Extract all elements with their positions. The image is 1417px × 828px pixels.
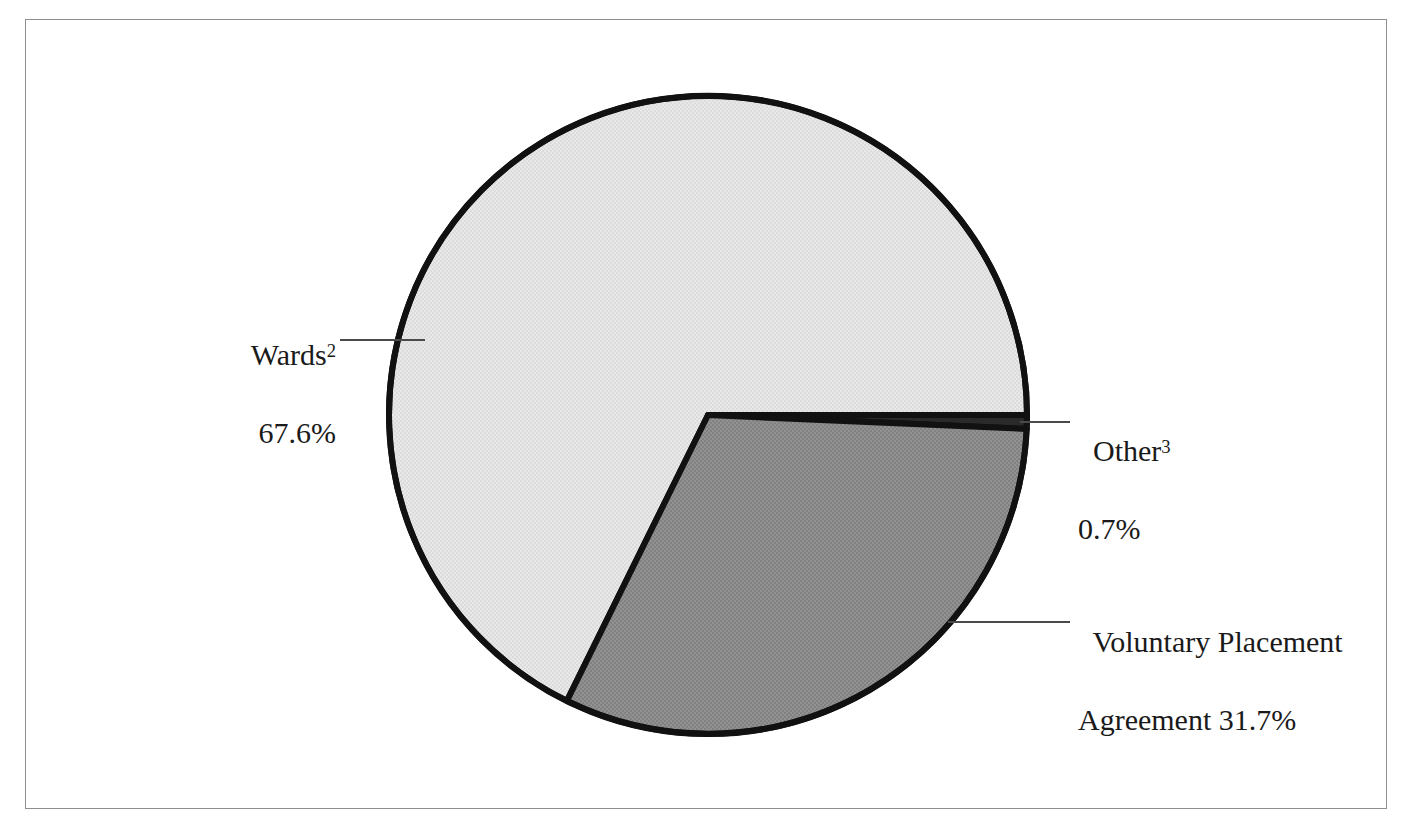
- pie-label-wards-name: Wards2: [251, 338, 336, 371]
- pie-label-wards-text: Wards: [251, 338, 327, 371]
- pie-label-voluntary-name: Voluntary Placement: [1092, 625, 1342, 658]
- footnote-marker-3: 3: [1161, 436, 1170, 457]
- clipped-top-text: [170, 0, 1070, 3]
- pie-label-wards-value: 67.6%: [216, 413, 336, 452]
- pie-label-voluntary-placement-agreement: Voluntary Placement Agreement 31.7%: [1078, 583, 1408, 778]
- pie-label-other-text: Other: [1093, 434, 1161, 467]
- pie-label-other-name: Other3: [1093, 434, 1171, 467]
- pie-label-other: Other3 0.7%: [1078, 392, 1288, 587]
- footnote-marker-2: 2: [327, 340, 336, 361]
- pie-label-wards: Wards2 67.6%: [216, 296, 336, 491]
- pie-label-other-value: 0.7%: [1078, 509, 1288, 548]
- pie-label-voluntary-value: Agreement 31.7%: [1078, 700, 1408, 739]
